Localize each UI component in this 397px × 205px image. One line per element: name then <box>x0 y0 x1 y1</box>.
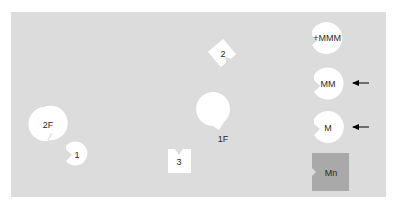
piece-1: 1 <box>66 142 87 166</box>
piece-label: 3 <box>176 157 181 167</box>
arrow-left-icon <box>352 80 369 86</box>
circle-notched-shape <box>196 92 230 130</box>
piece-3: 3 <box>168 149 191 173</box>
piece-label: M <box>324 123 332 133</box>
diagram-canvas: 2F 1 2 3 1F +MMM MM M <box>0 0 397 205</box>
piece-m: M <box>314 111 344 143</box>
piece-label: 2F <box>43 120 54 130</box>
piece-mm: MM <box>314 68 344 100</box>
piece-label: +MMM <box>313 33 341 43</box>
piece-label: MM <box>321 79 336 89</box>
piece-label: 1F <box>218 134 229 144</box>
piece-label: 2 <box>220 49 225 59</box>
piece-label: Mn <box>325 168 338 178</box>
piece-label: 1 <box>74 150 79 160</box>
piece-2f: 2F <box>28 106 67 141</box>
arrow-left-icon <box>352 124 369 130</box>
piece-mn: Mn <box>312 153 349 191</box>
piece-plus-mmm: +MMM <box>312 22 342 54</box>
piece-1f: 1F <box>196 92 230 144</box>
